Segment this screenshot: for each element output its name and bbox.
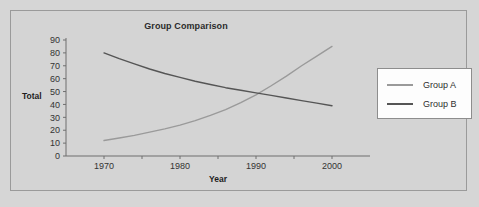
- plot-area: 0102030405060708090 1970198019902000 Tot…: [0, 0, 479, 207]
- svg-text:10: 10: [50, 138, 60, 148]
- svg-text:80: 80: [50, 48, 60, 58]
- svg-text:0: 0: [55, 151, 60, 161]
- svg-text:30: 30: [50, 113, 60, 123]
- svg-text:20: 20: [50, 125, 60, 135]
- data-series: [104, 46, 332, 140]
- x-axis-title: Year: [209, 174, 228, 184]
- chart-screenshot: Group Comparison Group A Group B 0102030…: [0, 0, 479, 207]
- y-axis-title: Total: [22, 91, 42, 101]
- svg-text:50: 50: [50, 87, 60, 97]
- svg-text:2000: 2000: [322, 161, 342, 171]
- svg-text:1990: 1990: [246, 161, 266, 171]
- svg-text:40: 40: [50, 100, 60, 110]
- x-axis: 1970198019902000: [66, 156, 370, 171]
- svg-text:70: 70: [50, 61, 60, 71]
- svg-text:60: 60: [50, 74, 60, 84]
- svg-text:1970: 1970: [94, 161, 114, 171]
- y-axis: 0102030405060708090: [50, 35, 66, 161]
- svg-text:90: 90: [50, 35, 60, 45]
- svg-text:1980: 1980: [170, 161, 190, 171]
